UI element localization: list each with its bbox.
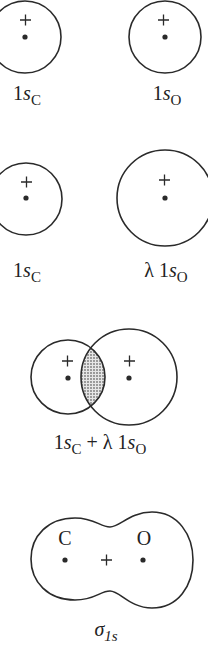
orbital-1s-o	[129, 1, 201, 73]
orbital-overlap	[31, 329, 177, 425]
orbital-1s-c	[0, 1, 61, 73]
label-1s-o: 1sO	[153, 82, 182, 109]
carbon-nucleus-dot-icon	[62, 557, 67, 562]
plus-sign-icon	[20, 15, 31, 26]
plus-sign-icon	[159, 175, 170, 186]
label-combination: 1sC + λ 1sO	[54, 431, 146, 458]
label-lambda-1s-o: λ 1sO	[144, 259, 187, 286]
plus-sign-icon	[62, 356, 73, 367]
orbital-lambda-1s-o	[117, 150, 208, 246]
nucleus-dot-icon	[23, 195, 28, 200]
plus-sign-icon	[158, 15, 169, 26]
plus-sign-icon	[21, 177, 32, 188]
sigma-1s-orbital	[31, 512, 193, 608]
oxygen-nucleus-dot-icon	[140, 557, 145, 562]
nucleus-dot-icon	[22, 34, 27, 39]
label-sigma-1s: σ1s	[94, 618, 117, 645]
nucleus-dot-icon	[126, 375, 131, 380]
orbital-1s-c-row2	[0, 163, 62, 235]
atom-label-o: O	[137, 527, 151, 550]
nucleus-dot-icon	[65, 375, 70, 380]
nucleus-dot-icon	[162, 195, 167, 200]
label-1s-c-row2: 1sC	[13, 259, 41, 286]
plus-sign-icon	[124, 356, 135, 367]
label-1s-c: 1sC	[13, 82, 41, 109]
atom-label-c: C	[58, 527, 71, 550]
plus-sign-icon	[101, 555, 112, 566]
nucleus-dot-icon	[162, 34, 167, 39]
